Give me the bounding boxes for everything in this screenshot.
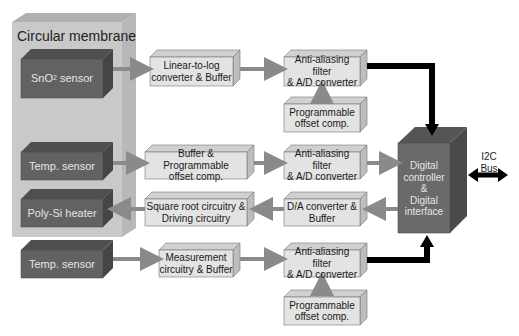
sensor-label-temp2: Temp. sensor bbox=[21, 250, 103, 278]
label-offset3: Programmableoffset comp. bbox=[284, 297, 360, 325]
label-adc2: Anti-aliasing filter& A/D converter bbox=[284, 152, 360, 179]
membrane-label: Circular membrane bbox=[17, 28, 136, 44]
label-dac: D/A converter &Buffer bbox=[284, 199, 360, 226]
sensor-label-sno2: SnO2 sensor bbox=[21, 59, 103, 98]
label-square-root: Square root circuitry &Driving circuitry bbox=[145, 199, 247, 226]
label-adc1: Anti-aliasing filter& A/D converter bbox=[284, 57, 360, 86]
label-adc3: Anti-aliasing filter& A/D converter bbox=[284, 250, 360, 277]
label-lin2log: Linear-to-logconverter & Buffer bbox=[150, 57, 233, 86]
controller-label: Digital controller & Digital interface bbox=[398, 150, 450, 228]
label-offset1: Programmableoffset comp. bbox=[284, 104, 360, 132]
sensor-label-temp1: Temp. sensor bbox=[21, 152, 103, 180]
i2c-bus-label: I2C Bus bbox=[474, 151, 504, 175]
sensor-label-heater: Poly-Si heater bbox=[21, 199, 103, 227]
label-measurement: Measurementcircuitry & Buffer bbox=[159, 250, 233, 277]
label-buffer-programmable: Buffer & Programmableoffset comp. bbox=[145, 152, 247, 179]
